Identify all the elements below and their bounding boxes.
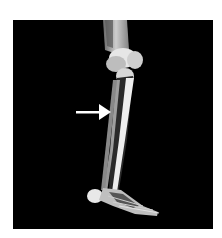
arrow-annotation-icon bbox=[76, 104, 111, 120]
leg-skeleton-render bbox=[13, 20, 213, 229]
foot bbox=[87, 188, 159, 216]
xray-image-panel bbox=[13, 20, 213, 229]
